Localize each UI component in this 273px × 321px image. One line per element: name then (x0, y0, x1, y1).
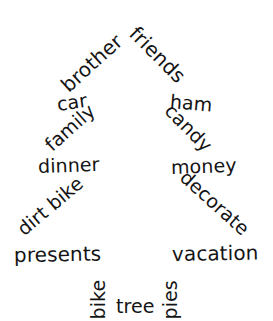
wordcloud-word: brother (57, 31, 126, 96)
wordcloud-word: friends (126, 23, 189, 86)
wordcloud-word: tree (116, 297, 155, 316)
wordcloud-word: presents (14, 243, 102, 265)
wordcloud-word: pies (161, 280, 180, 319)
wordcloud-word: dirt bike (14, 174, 87, 239)
wordcloud-word: money (171, 156, 237, 177)
wordcloud-word: decorate (177, 167, 253, 238)
wordcloud-canvas: brotherfriendscarhamfamilycandydinnermon… (0, 0, 273, 321)
wordcloud-word: bike (89, 280, 108, 320)
wordcloud-word: dinner (38, 155, 100, 176)
wordcloud-word: vacation (172, 242, 259, 264)
